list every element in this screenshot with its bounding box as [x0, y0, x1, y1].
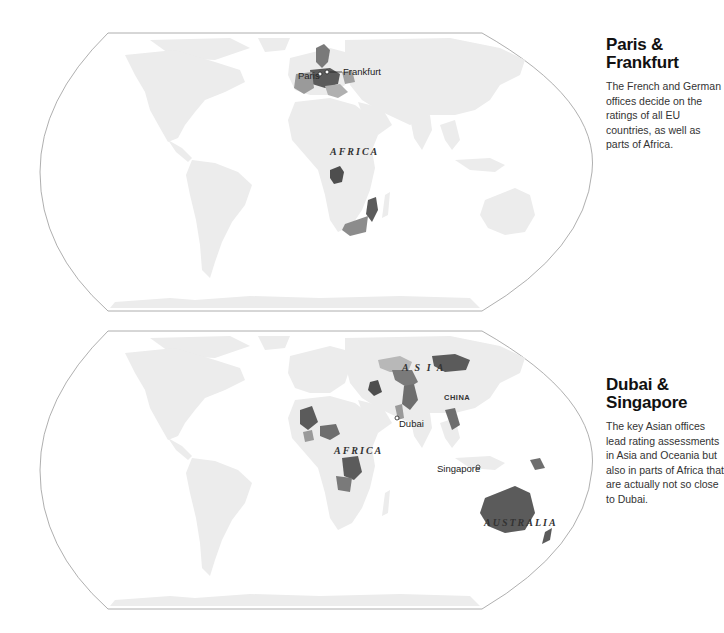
city-label-paris: Paris: [298, 70, 320, 81]
caption-title: Paris & Frankfurt: [606, 36, 724, 72]
region-label-australia: AUSTRALIA: [483, 517, 558, 528]
caption-text: The key Asian offices lead rating assess…: [606, 419, 724, 506]
country-label-china: CHINA: [444, 393, 470, 402]
map-paris-frankfurt: AFRICA Paris Frankfurt: [0, 0, 600, 320]
map-dubai-singapore: A S I A CHINA AFRICA AUSTRALIA Dubai Sin…: [0, 300, 600, 620]
city-label-singapore: Singapore: [437, 463, 480, 474]
caption-dubai-singapore: Dubai & Singapore The key Asian offices …: [606, 376, 724, 506]
caption-text: The French and German offices decide on …: [606, 79, 724, 152]
caption-paris-frankfurt: Paris & Frankfurt The French and German …: [606, 36, 724, 152]
city-marker-frankfurt: [325, 70, 329, 74]
city-label-frankfurt: Frankfurt: [343, 66, 381, 77]
caption-title: Dubai & Singapore: [606, 376, 724, 412]
city-label-dubai: Dubai: [399, 418, 424, 429]
world-map-1: AFRICA Paris Frankfurt: [0, 0, 600, 320]
world-map-2: A S I A CHINA AFRICA AUSTRALIA Dubai Sin…: [0, 300, 600, 620]
region-label-africa: AFRICA: [333, 445, 383, 456]
region-label-africa: AFRICA: [329, 146, 379, 157]
region-label-asia: A S I A: [401, 362, 445, 373]
